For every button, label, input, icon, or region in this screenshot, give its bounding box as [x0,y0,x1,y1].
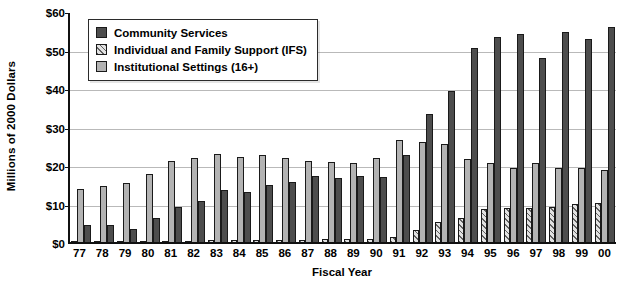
y-axis-tick-label: $0 [52,238,65,250]
x-axis-tick-label: 78 [91,247,114,265]
bar-inst [419,142,426,242]
bar-inst [191,158,198,242]
x-axis-tick-label: 83 [205,247,228,265]
bar-group [411,13,434,242]
x-axis-tick-label: 95 [479,247,502,265]
x-axis-tick-label: 87 [296,247,319,265]
x-axis-tick-label: 98 [547,247,570,265]
bar-group [434,13,457,242]
bar-group [366,13,389,242]
bar-inst [396,140,403,242]
bar-cs [403,155,410,242]
bar-inst [168,161,175,242]
bar-cs [585,39,592,242]
bar-group [343,13,366,242]
bar-group [525,13,548,242]
bar-group [457,13,480,242]
bar-cs [266,185,273,242]
y-axis-tick-label: $30 [46,123,65,135]
bar-group [502,13,525,242]
bar-group [593,13,616,242]
y-axis-title-text: Millions of 2000 Dollars [5,61,17,191]
bar-inst [282,158,289,242]
x-axis-tick-label: 00 [593,247,616,265]
bar-cs [107,225,114,242]
bar-group [389,13,412,242]
bar-inst [328,162,335,242]
x-axis-tick-label: 79 [114,247,137,265]
legend-item: Community Services [96,24,307,41]
bar-cs [517,34,524,242]
x-axis-tick-label: 96 [502,247,525,265]
bar-inst [578,168,585,242]
bar-cs [471,48,478,242]
bar-inst [510,168,517,242]
bar-inst [259,155,266,242]
bar-group [320,13,343,242]
legend-swatch-ifs [96,44,107,55]
legend-label: Institutional Settings (16+) [114,61,258,73]
bar-cs [84,225,91,242]
bar-group [548,13,571,242]
x-axis-tick-label: 88 [319,247,342,265]
x-axis-tick-label: 77 [68,247,91,265]
bar-cs [175,207,182,242]
bar-inst [214,154,221,242]
x-axis-tick-label: 80 [136,247,159,265]
bar-cs [289,182,296,242]
x-axis-tick-label: 97 [525,247,548,265]
bar-cs [130,229,137,242]
legend-label: Community Services [114,27,228,39]
x-axis-tick-label: 85 [251,247,274,265]
y-axis-tick-label: $50 [46,46,65,58]
bar-cs [539,58,546,242]
x-axis-tick-label: 93 [433,247,456,265]
bar-chart: Millions of 2000 Dollars $0$10$20$30$40$… [0,0,636,289]
bar-cs [380,177,387,242]
bar-inst [373,158,380,242]
x-axis-tick-label: 99 [570,247,593,265]
bar-cs [244,192,251,242]
legend-label: Individual and Family Support (IFS) [114,44,307,56]
bar-cs [426,114,433,242]
bar-cs [221,190,228,242]
bar-inst [305,161,312,242]
x-axis-title: Fiscal Year [68,266,616,278]
bar-inst [532,163,539,242]
bar-group [571,13,594,242]
bar-inst [487,163,494,242]
bar-inst [100,186,107,242]
bar-inst [555,168,562,242]
bar-cs [198,201,205,242]
y-axis-title: Millions of 2000 Dollars [0,0,22,252]
bar-cs [357,176,364,242]
bar-cs [562,32,569,242]
y-axis-tick-label: $20 [46,161,65,173]
x-axis-tick-label: 86 [273,247,296,265]
bar-inst [464,159,471,242]
bar-cs [335,178,342,242]
x-axis-tick-labels: 7778798081828384858687888990919293949596… [68,247,616,265]
y-axis-tick-label: $40 [46,84,65,96]
legend-item: Individual and Family Support (IFS) [96,41,307,58]
y-axis-tick-label: $60 [46,7,65,19]
bar-group [480,13,503,242]
x-axis-tick-label: 81 [159,247,182,265]
bar-cs [448,91,455,242]
bar-inst [146,174,153,242]
bar-inst [601,170,608,242]
bar-inst [441,144,448,242]
bar-inst [350,163,357,242]
legend-swatch-inst [96,61,107,72]
legend-swatch-cs [96,27,107,38]
bar-cs [153,218,160,242]
x-axis-tick-label: 84 [228,247,251,265]
x-axis-tick-label: 90 [365,247,388,265]
x-axis-tick-label: 92 [410,247,433,265]
bar-cs [312,176,319,242]
bar-cs [608,27,615,242]
legend-item: Institutional Settings (16+) [96,58,307,75]
bar-inst [123,183,130,242]
x-axis-tick-label: 94 [456,247,479,265]
x-axis-tick-label: 89 [342,247,365,265]
